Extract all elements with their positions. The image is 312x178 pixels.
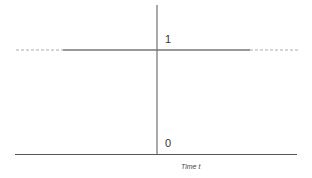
x-axis-label: Time t bbox=[181, 163, 200, 170]
y-tick-zero: 0 bbox=[165, 138, 171, 149]
y-tick-one: 1 bbox=[165, 34, 171, 45]
step-diagram bbox=[0, 0, 312, 178]
